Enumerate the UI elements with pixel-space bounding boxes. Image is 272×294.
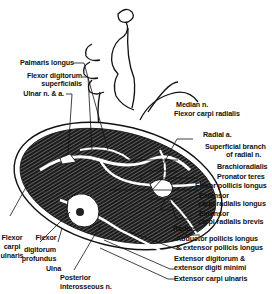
- label-pronator-teres: Pronator teres: [217, 173, 265, 181]
- label-extensor-digitorum-2: extensor digiti minimi: [174, 264, 246, 272]
- label-brachioradialis: Brachioradialis: [217, 163, 267, 171]
- label-extensor-carpi-ulnaris: Extensor carpi ulnaris: [174, 275, 247, 283]
- label-flexor-digitorum-profundus-2: digitorum: [20, 246, 60, 254]
- label-flexor-pollicis-longus: Flexor pollicis longus: [195, 182, 267, 190]
- label-flexor-carpi-ulnaris-1: Flexor: [0, 234, 24, 242]
- label-flexor-digitorum-profundus-1: Flexor: [26, 234, 66, 242]
- label-extensor-carpi-radialis-brevis-2: carpi radialis brevis: [198, 218, 263, 226]
- label-median-nerve: Median n.: [176, 101, 208, 109]
- label-palmaris-longus: Palmaris longus: [4, 59, 74, 67]
- label-flexor-digitorum-superficialis-2: superficialis: [4, 80, 82, 88]
- label-ulna: Ulna: [46, 265, 61, 273]
- label-flexor-carpi-radialis: Flexor carpi radialis: [174, 110, 240, 118]
- label-radial-artery: Radial a.: [203, 131, 232, 139]
- label-posterior-interosseous-2: interosseous n.: [60, 283, 112, 291]
- label-flexor-digitorum-profundus-3: profundus: [18, 255, 60, 263]
- label-extensor-carpi-radialis-longus-2: carpi radialis longus: [198, 200, 266, 208]
- label-ulnar-nerve-artery: Ulnar n. & a.: [0, 90, 64, 98]
- label-extensor-digitorum-1: Extensor digitorum &: [174, 255, 245, 263]
- label-abductor-pollicis-longus-2: & extensor pollicis longus: [176, 244, 263, 252]
- label-posterior-interosseous-1: Posterior: [60, 274, 91, 282]
- label-superficial-branch-radial-2: of radial n.: [226, 151, 261, 159]
- label-abductor-pollicis-longus-1: Abductor pollicis longus: [176, 235, 258, 243]
- label-radius: Radius: [173, 225, 196, 233]
